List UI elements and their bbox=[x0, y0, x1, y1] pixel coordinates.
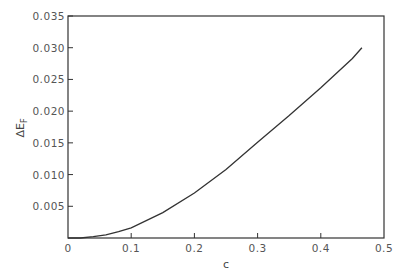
y-tick-label: 0.010 bbox=[32, 169, 65, 181]
y-tick-label: 0.015 bbox=[32, 137, 65, 149]
x-axis-ticks: 00.10.20.30.40.5 bbox=[64, 233, 393, 254]
plot-frame bbox=[68, 16, 384, 238]
y-tick-label: 0.035 bbox=[32, 10, 65, 22]
x-tick-label: 0 bbox=[64, 242, 71, 254]
y-tick-label: 0.005 bbox=[32, 200, 65, 212]
y-tick-label: 0.025 bbox=[32, 73, 65, 85]
chart: 0.0050.0100.0150.0200.0250.0300.035 00.1… bbox=[0, 0, 399, 276]
x-tick-label: 0.4 bbox=[312, 242, 330, 254]
x-tick-label: 0.1 bbox=[122, 242, 140, 254]
data-line bbox=[68, 48, 362, 238]
y-axis-label-sub: F bbox=[20, 118, 29, 123]
x-tick-label: 0.2 bbox=[185, 242, 203, 254]
x-tick-label: 0.5 bbox=[375, 242, 393, 254]
y-axis-label-main: ΔE bbox=[14, 123, 27, 138]
y-tick-label: 0.020 bbox=[32, 105, 65, 117]
x-axis-label: c bbox=[223, 258, 229, 271]
svg-text:ΔEF: ΔEF bbox=[14, 118, 29, 137]
x-tick-label: 0.3 bbox=[248, 242, 266, 254]
y-tick-label: 0.030 bbox=[32, 42, 65, 54]
y-axis-label: ΔEF bbox=[14, 118, 29, 137]
y-axis-ticks: 0.0050.0100.0150.0200.0250.0300.035 bbox=[32, 10, 73, 212]
